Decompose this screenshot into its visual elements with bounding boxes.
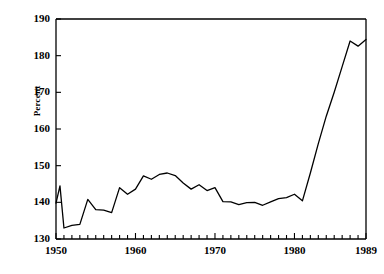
chart-container: Percent 130140150160170180190 1950196019… <box>0 0 384 274</box>
axis-ticks <box>56 19 366 239</box>
axes <box>56 19 366 239</box>
data-series-line <box>56 40 366 228</box>
plot-area <box>0 0 384 274</box>
